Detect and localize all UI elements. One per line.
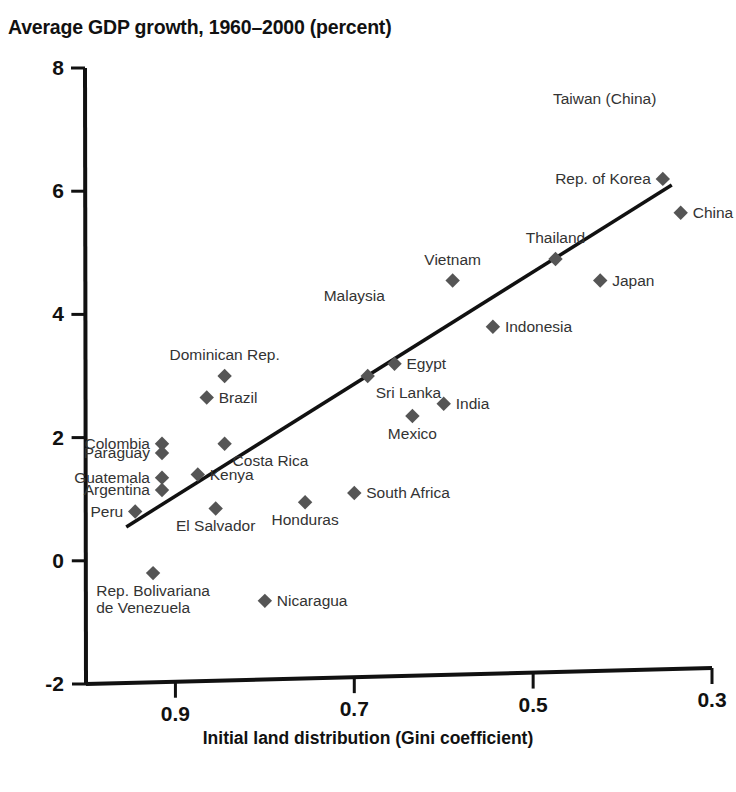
point-label-peru: Peru: [90, 503, 123, 520]
point-label-egypt: Egypt: [407, 355, 447, 372]
data-point-marker: [405, 409, 419, 423]
data-point-marker: [347, 486, 361, 500]
point-label-nicaragua: Nicaragua: [277, 592, 348, 609]
data-point-marker: [258, 594, 272, 608]
point-label-el-salvador: El Salvador: [176, 518, 255, 535]
point-label-honduras: Honduras: [271, 512, 338, 529]
y-axis-tick-neg2: -2: [0, 672, 64, 696]
data-point-marker: [656, 172, 670, 186]
point-label-rep-bolivariana-de-venezuela: Rep. Bolivariana de Venezuela: [96, 583, 210, 616]
data-point-marker: [208, 501, 222, 515]
point-label-argentina: Argentina: [84, 482, 150, 499]
x-axis-tick-0-9: 0.9: [161, 702, 190, 726]
y-axis-tick-6: 6: [0, 179, 64, 203]
gdp-land-distribution-scatter-figure: Average GDP growth, 1960–2000 (percent) …: [0, 0, 736, 792]
point-label-vietnam: Vietnam: [424, 252, 481, 269]
point-label-rep-of-korea: Rep. of Korea: [555, 171, 651, 188]
point-label-malaysia: Malaysia: [324, 288, 385, 305]
point-label-china: China: [693, 204, 734, 221]
y-axis-tick-2: 2: [0, 426, 64, 450]
x-axis-label: Initial land distribution (Gini coeffici…: [0, 728, 736, 749]
data-point-marker: [155, 483, 169, 497]
point-label-indonesia: Indonesia: [505, 318, 572, 335]
plot-area: [0, 0, 736, 792]
point-label-taiwan-china: Taiwan (China): [553, 91, 656, 108]
data-point-marker: [593, 273, 607, 287]
data-point-marker: [155, 470, 169, 484]
data-point-marker: [217, 437, 231, 451]
data-point-marker: [298, 495, 312, 509]
x-axis-tick-0-3: 0.3: [697, 688, 726, 712]
point-label-sri-lanka: Sri Lanka: [376, 385, 441, 402]
y-axis-tick-8: 8: [0, 56, 64, 80]
data-point-marker: [146, 566, 160, 580]
data-point-marker: [217, 369, 231, 383]
data-point-marker: [387, 356, 401, 370]
data-point-marker: [155, 446, 169, 460]
data-point-marker: [486, 320, 500, 334]
point-label-india: India: [456, 395, 490, 412]
x-axis-tick-0-5: 0.5: [519, 693, 548, 717]
point-label-south-africa: South Africa: [366, 485, 450, 502]
data-point-marker: [445, 273, 459, 287]
point-label-mexico: Mexico: [388, 426, 437, 443]
point-label-dominican-rep: Dominican Rep.: [169, 347, 279, 364]
data-point-marker: [674, 206, 688, 220]
point-label-brazil: Brazil: [219, 389, 258, 406]
y-axis-tick-0: 0: [0, 549, 64, 573]
y-axis-tick-4: 4: [0, 302, 64, 326]
point-label-paraguay: Paraguay: [84, 445, 150, 462]
point-label-japan: Japan: [612, 272, 654, 289]
point-label-kenya: Kenya: [210, 466, 254, 483]
data-point-marker: [200, 390, 214, 404]
point-label-thailand: Thailand: [526, 230, 585, 247]
x-axis-tick-0-7: 0.7: [340, 697, 369, 721]
